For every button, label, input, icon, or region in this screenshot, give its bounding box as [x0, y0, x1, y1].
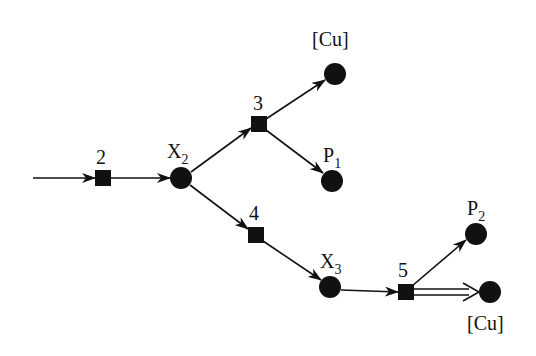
- species-node-X3: [319, 276, 341, 298]
- reaction-step-3: [251, 116, 267, 132]
- arrow-edge: [412, 240, 466, 286]
- species-label-X3: X3: [320, 250, 341, 277]
- arrow-edge: [266, 80, 325, 119]
- species-label-Cu_bot: [Cu]: [467, 312, 504, 334]
- species-label-P2: P2: [467, 197, 485, 224]
- step-label-4: 4: [249, 202, 259, 224]
- nodes: [95, 63, 501, 303]
- species-node-Cu_top: [324, 63, 346, 85]
- species-label-P1: P1: [323, 144, 341, 171]
- step-label-2: 2: [96, 146, 106, 168]
- arrow-edge: [190, 185, 248, 229]
- species-node-P2: [465, 223, 487, 245]
- arrow-edge: [191, 128, 251, 172]
- species-node-Cu_bot: [479, 281, 501, 303]
- reaction-step-5: [398, 284, 414, 300]
- step-label-3: 3: [253, 92, 263, 114]
- arrow-edge: [263, 241, 321, 280]
- reaction-step-4: [248, 227, 264, 243]
- species-node-X2: [170, 167, 192, 189]
- arrow-edge: [341, 290, 398, 292]
- species-node-P1: [321, 170, 343, 192]
- reaction-step-2: [95, 170, 111, 186]
- labels: X2[Cu]P1X3P2[Cu]2345: [96, 28, 504, 334]
- double-arrow-edge: [414, 283, 479, 301]
- step-label-5: 5: [398, 259, 408, 281]
- species-label-X2: X2: [167, 140, 188, 167]
- reaction-network-diagram: X2[Cu]P1X3P2[Cu]2345: [0, 0, 536, 356]
- species-label-Cu_top: [Cu]: [312, 28, 349, 50]
- arrow-edge: [266, 130, 323, 173]
